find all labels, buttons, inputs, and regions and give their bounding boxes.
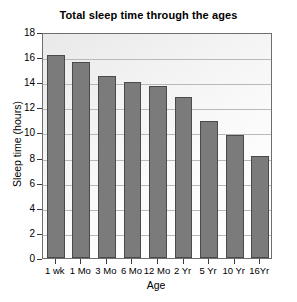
plot-area xyxy=(42,33,272,259)
bar xyxy=(98,76,116,258)
bar xyxy=(200,121,218,258)
y-tick-mark xyxy=(37,184,42,185)
x-tick-mark xyxy=(131,259,132,264)
chart-title: Total sleep time through the ages xyxy=(0,8,297,22)
bar xyxy=(124,82,142,258)
y-tick-label: 12 xyxy=(5,103,35,113)
y-tick-mark xyxy=(37,33,42,34)
y-tick-mark xyxy=(37,159,42,160)
y-tick-label: 4 xyxy=(5,204,35,214)
y-tick-mark xyxy=(37,108,42,109)
bar xyxy=(226,135,244,258)
y-tick-label: 18 xyxy=(5,28,35,38)
bar xyxy=(175,97,193,258)
x-tick-mark xyxy=(106,259,107,264)
y-tick-label: 2 xyxy=(5,229,35,239)
y-tick-mark xyxy=(37,209,42,210)
y-tick-label: 8 xyxy=(5,154,35,164)
gridline xyxy=(43,59,271,60)
y-tick-label: 0 xyxy=(5,254,35,264)
x-tick-mark xyxy=(234,259,235,264)
y-tick-label: 16 xyxy=(5,53,35,63)
bar xyxy=(72,62,90,258)
bar xyxy=(149,86,167,258)
y-tick-label: 14 xyxy=(5,78,35,88)
x-axis-title: Age xyxy=(40,279,272,291)
y-axis-title: Sleep time (hours) xyxy=(11,74,23,214)
x-tick-mark xyxy=(55,259,56,264)
y-tick-mark xyxy=(37,58,42,59)
x-tick-mark xyxy=(157,259,158,264)
y-tick-mark xyxy=(37,83,42,84)
x-tick-label: 16Yr xyxy=(236,265,282,276)
x-tick-mark xyxy=(208,259,209,264)
x-tick-mark xyxy=(259,259,260,264)
y-tick-mark xyxy=(37,259,42,260)
y-tick-mark xyxy=(37,234,42,235)
bar xyxy=(251,156,269,258)
y-tick-label: 6 xyxy=(5,179,35,189)
x-tick-mark xyxy=(183,259,184,264)
x-tick-mark xyxy=(80,259,81,264)
bar xyxy=(47,55,65,258)
y-tick-label: 10 xyxy=(5,128,35,138)
y-tick-mark xyxy=(37,133,42,134)
bar-chart-figure: Total sleep time through the ages Sleep … xyxy=(0,0,297,302)
